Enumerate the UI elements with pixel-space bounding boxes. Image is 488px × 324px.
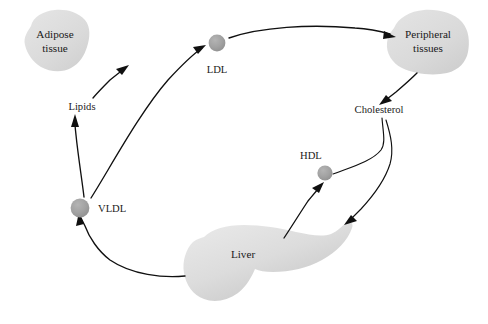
adipose-tissue-label-line2: tissue (42, 42, 68, 54)
flow-liver-to-hdl-arrowhead (312, 182, 324, 193)
lipids-label: Lipids (68, 101, 95, 112)
flow-ldl-to-peripheral-path (229, 26, 390, 38)
flow-vldl-to-ldl (91, 45, 206, 198)
adipose-tissue-shape (25, 10, 90, 71)
hdl-label: HDL (300, 150, 322, 161)
liver-shape (183, 222, 352, 301)
flow-vldl-to-lipids-path (75, 120, 84, 197)
flow-cholesterol-to-hdl (333, 118, 384, 174)
organ-adipose-tissue: Adipose tissue (25, 10, 90, 71)
particle-vldl: VLDL (71, 199, 127, 218)
diagram-canvas: Adipose tissue Peripheral tissues Liver (0, 0, 488, 324)
flow-liver-to-vldl-path (81, 218, 185, 277)
flow-peripheral-to-cholesterol-path (384, 73, 417, 101)
organ-peripheral-tissues: Peripheral tissues (387, 10, 469, 75)
vldl-label: VLDL (98, 203, 126, 214)
flow-lipids-to-adipose (93, 65, 129, 98)
flow-cholesterol-to-liver (344, 120, 392, 225)
particle-hdl: HDL (300, 150, 333, 181)
lipoprotein-transport-diagram: Adipose tissue Peripheral tissues Liver (0, 0, 488, 324)
flow-lipids-to-adipose-path (93, 69, 124, 98)
ldl-circle (209, 35, 226, 52)
particle-ldl: LDL (207, 35, 228, 75)
flow-liver-to-hdl-path (284, 187, 320, 238)
flow-vldl-to-lipids-arrowhead (71, 114, 79, 127)
cholesterol-label: Cholesterol (355, 104, 404, 115)
flow-vldl-to-lipids (71, 114, 84, 197)
peripheral-tissues-label-line2: tissues (413, 42, 443, 54)
flow-vldl-to-ldl-path (91, 48, 202, 198)
flow-peripheral-to-cholesterol (379, 73, 417, 105)
vldl-circle (71, 199, 90, 218)
flow-ldl-to-peripheral (229, 26, 396, 39)
flow-cholesterol-to-liver-path (349, 120, 392, 221)
flow-liver-to-hdl (284, 182, 324, 238)
flow-cholesterol-to-hdl-path (333, 118, 384, 174)
organ-liver: Liver (183, 222, 352, 301)
hdl-circle (317, 165, 332, 180)
flow-liver-to-vldl (76, 212, 185, 277)
ldl-label: LDL (207, 64, 228, 75)
peripheral-tissues-label-line1: Peripheral (405, 28, 451, 40)
liver-label: Liver (231, 248, 256, 260)
adipose-tissue-label-line1: Adipose (36, 28, 73, 40)
